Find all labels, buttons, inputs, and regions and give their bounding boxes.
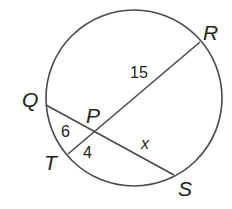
- point-label-q: Q: [22, 88, 38, 111]
- segment-tp-length: 4: [83, 144, 92, 161]
- segment-ps-length: x: [140, 135, 150, 152]
- diagram-canvas: R Q P T S 15 6 4 x: [0, 0, 232, 209]
- chord-tr: [68, 42, 200, 154]
- circle-chords-diagram: R Q P T S 15 6 4 x: [0, 0, 232, 209]
- point-label-t: T: [44, 151, 59, 174]
- segment-pr-length: 15: [130, 64, 148, 81]
- point-label-s: S: [178, 177, 192, 200]
- point-label-p: P: [86, 104, 100, 127]
- chord-qs: [46, 105, 174, 175]
- segment-qp-length: 6: [61, 123, 70, 140]
- point-label-r: R: [203, 21, 218, 44]
